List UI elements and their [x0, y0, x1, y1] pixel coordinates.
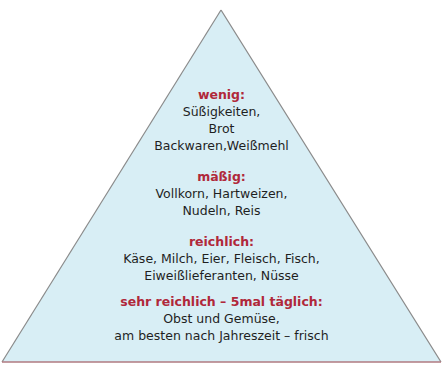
level-line: Vollkorn, Hartweizen,: [0, 185, 443, 202]
level-heading: wenig:: [0, 86, 443, 103]
level-heading: reichlich:: [0, 233, 443, 250]
level-maessig: mäßig: Vollkorn, Hartweizen, Nudeln, Rei…: [0, 168, 443, 219]
level-line: Obst und Gemüse,: [0, 310, 443, 327]
level-line: Brot: [0, 120, 443, 137]
level-line: am besten nach Jahreszeit – frisch: [0, 327, 443, 344]
level-line: Nudeln, Reis: [0, 202, 443, 219]
level-line: Käse, Milch, Eier, Fleisch, Fisch,: [0, 250, 443, 267]
level-line: Backwaren,Weißmehl: [0, 137, 443, 154]
level-line: Süßigkeiten,: [0, 103, 443, 120]
level-line: Eiweißlieferanten, Nüsse: [0, 267, 443, 284]
level-heading: mäßig:: [0, 168, 443, 185]
level-sehr-reichlich: sehr reichlich – 5mal täglich: Obst und …: [0, 293, 443, 344]
level-heading: sehr reichlich – 5mal täglich:: [0, 293, 443, 310]
level-reichlich: reichlich: Käse, Milch, Eier, Fleisch, F…: [0, 233, 443, 284]
level-wenig: wenig: Süßigkeiten, Brot Backwaren,Weißm…: [0, 86, 443, 154]
